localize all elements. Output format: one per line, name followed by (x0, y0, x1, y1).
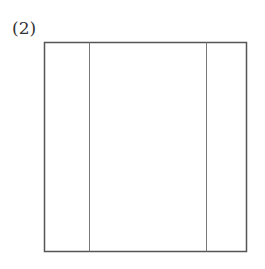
rectangle-diagram (0, 0, 265, 269)
outer-rectangle (45, 43, 247, 252)
